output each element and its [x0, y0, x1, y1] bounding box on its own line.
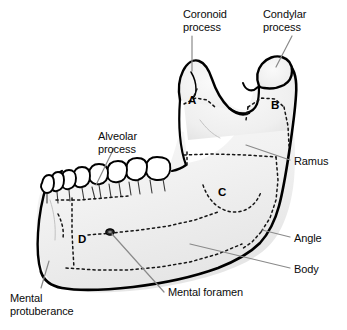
label-body: Body: [294, 263, 319, 276]
mandible-diagram: Coronoid process Condylar process Alveol…: [0, 0, 347, 330]
label-mental-foramen: Mental foramen: [168, 286, 243, 299]
tooth-premolar-2: [106, 161, 127, 182]
condylar-head-contour: [257, 56, 292, 88]
marker-region-b: B: [271, 99, 279, 111]
label-ramus: Ramus: [294, 155, 328, 168]
label-condylar-process: Condylar process: [263, 8, 306, 33]
marker-region-d: D: [78, 233, 86, 245]
mental-foramen-inner: [108, 231, 112, 234]
label-alveolar-process: Alveolar process: [98, 130, 137, 155]
marker-region-c: C: [218, 186, 226, 198]
tooth-incisor-central-1: [41, 175, 54, 193]
label-angle: Angle: [294, 232, 322, 245]
marker-region-a: A: [188, 94, 196, 106]
tooth-molar-2: [125, 158, 147, 180]
tooth-molar-3: [146, 157, 171, 180]
label-mental-protuberance: Mental protuberance: [10, 292, 74, 317]
label-coronoid-process: Coronoid process: [183, 8, 227, 33]
